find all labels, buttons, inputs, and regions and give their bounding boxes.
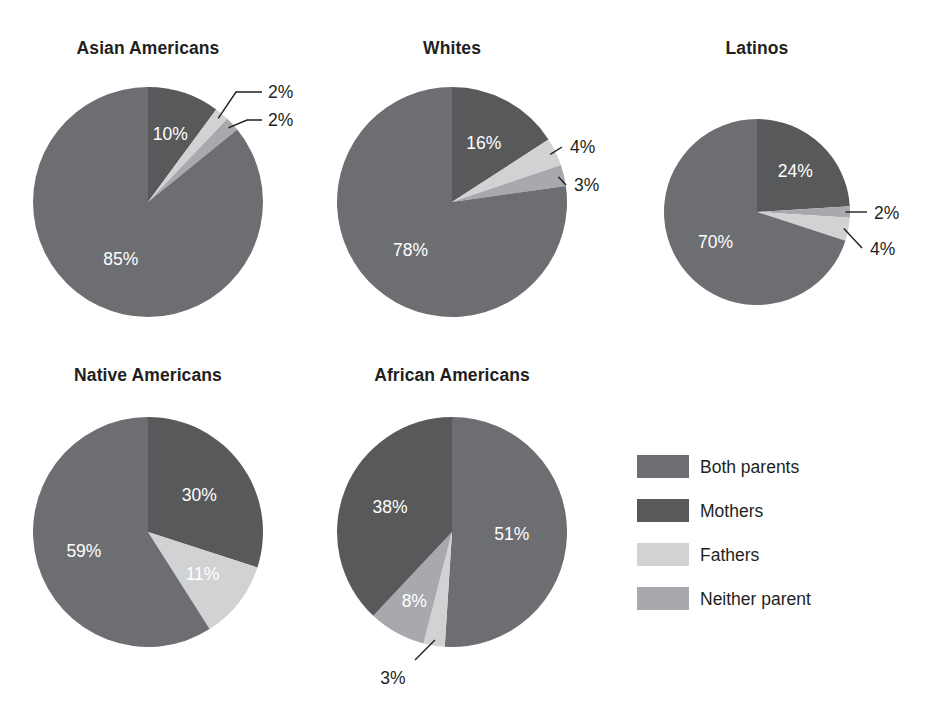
slice-value-label: 16% bbox=[466, 133, 501, 153]
chart-title: Asian Americans bbox=[77, 38, 220, 58]
slice-value-label: 59% bbox=[66, 541, 101, 561]
slice-value-label: 4% bbox=[870, 239, 895, 259]
slice-value-label: 85% bbox=[103, 249, 138, 269]
chart-title: Whites bbox=[423, 38, 481, 58]
slice-value-label: 38% bbox=[372, 497, 407, 517]
legend-label-mothers: Mothers bbox=[700, 501, 763, 521]
slice-value-label: 24% bbox=[778, 161, 813, 181]
slice-value-label: 10% bbox=[153, 124, 188, 144]
legend-label-neither_parent: Neither parent bbox=[700, 589, 811, 609]
legend-item-neither_parent[interactable]: Neither parent bbox=[637, 587, 811, 610]
legend-swatch-fathers bbox=[637, 543, 689, 566]
slice-value-label: 8% bbox=[402, 591, 427, 611]
chart-title: African Americans bbox=[374, 365, 530, 385]
legend-label-fathers: Fathers bbox=[700, 545, 760, 565]
slice-value-label: 4% bbox=[570, 137, 595, 157]
slice-value-label: 70% bbox=[698, 232, 733, 252]
slice-value-label: 30% bbox=[182, 485, 217, 505]
slice-value-label: 51% bbox=[494, 524, 529, 544]
slice-value-label: 11% bbox=[186, 564, 220, 584]
slice-value-label: 78% bbox=[393, 240, 428, 260]
legend-swatch-mothers bbox=[637, 499, 689, 522]
legend-item-mothers[interactable]: Mothers bbox=[637, 499, 763, 522]
slice-value-label: 2% bbox=[268, 110, 293, 130]
slice-value-label: 3% bbox=[574, 175, 599, 195]
slice-value-label: 2% bbox=[268, 82, 293, 102]
slice-value-label: 3% bbox=[380, 668, 405, 688]
legend-label-both_parents: Both parents bbox=[700, 457, 799, 477]
legend-item-both_parents[interactable]: Both parents bbox=[637, 455, 799, 478]
slice-value-label: 2% bbox=[874, 203, 899, 223]
chart-title: Latinos bbox=[726, 38, 789, 58]
chart-title: Native Americans bbox=[74, 365, 222, 385]
pie-chart-figure: 10%2%2%85%16%4%3%78%24%2%4%70%30%11%59%5… bbox=[0, 0, 937, 702]
pie-chart: 30%11%59% bbox=[33, 417, 263, 647]
legend-swatch-both_parents bbox=[637, 455, 689, 478]
legend-swatch-neither_parent bbox=[637, 587, 689, 610]
